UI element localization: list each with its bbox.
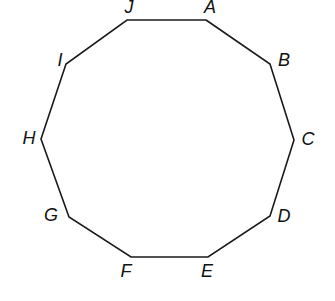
vertex-label-e: E bbox=[201, 261, 214, 281]
vertex-label-c: C bbox=[302, 129, 316, 149]
decagon-diagram: A B C D E F G H I J bbox=[0, 0, 335, 301]
vertex-label-b: B bbox=[278, 50, 290, 70]
vertex-label-g: G bbox=[44, 205, 58, 225]
vertex-label-f: F bbox=[121, 261, 133, 281]
vertex-label-a: A bbox=[203, 0, 216, 17]
decagon-outline bbox=[41, 20, 294, 257]
vertex-label-i: I bbox=[57, 50, 62, 70]
vertex-label-d: D bbox=[278, 206, 291, 226]
vertex-label-h: H bbox=[23, 128, 37, 148]
vertex-labels: A B C D E F G H I J bbox=[23, 0, 316, 281]
vertex-label-j: J bbox=[124, 0, 135, 17]
